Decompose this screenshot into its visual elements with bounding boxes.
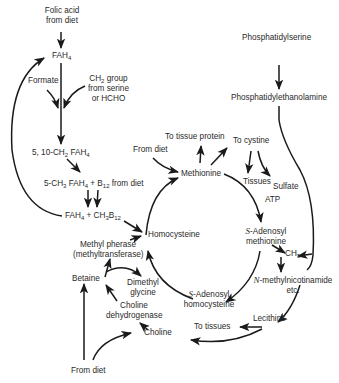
arrow-homocysteine-to-methionine [146,178,178,235]
node-choline: Choline [144,328,172,338]
node-methionine: Methionine [181,169,221,179]
text: 5-CH [44,179,63,188]
node-betaine: Betaine [72,274,100,284]
node-5-ch3-fah4-b12: 5-CH3 FAH4 + B12 from diet [44,179,144,189]
node-tissues: Tissues [243,177,271,187]
node-fah4: FAH4 [52,51,71,61]
node-s-adenosyl-methionine: S-Adenosyl methionine [241,226,291,247]
text: FAH [52,51,68,60]
node-folic-acid-from-diet: Folic acid from diet [40,6,84,26]
subscript: 4 [68,55,71,61]
node-to-cystine: To cystine [233,136,269,146]
text-line: from serine [88,84,129,94]
arrow-dehydrogenase-to-betaine [106,285,117,301]
text: FAH [66,179,84,188]
node-to-tissues: To tissues [194,322,230,332]
text-line: dehydrogenase [106,311,162,321]
node-to-tissue-protein: To tissue protein [165,132,225,142]
node-atp: ATP [265,195,280,205]
text-line: Dimethyl [126,278,160,288]
node-n-methylnicotinamide: N-methylnicotinamide etc. [250,275,336,296]
arrow-betaine-to-pherase [105,259,110,277]
subscript: 4 [86,152,89,158]
text-line: etc. [250,286,336,296]
node-dimethyl-glycine: Dimethyl glycine [126,278,160,298]
pathway-diagram: Folic acid from diet FAH4 Formate CH2 gr… [0,0,339,383]
node-from-diet-methionine: From diet [133,145,168,155]
text: FAH [68,148,86,157]
node-phosphatidylserine: Phosphatidylserine [242,33,311,43]
text-line: N-methylnicotinamide [250,275,336,286]
arrow-methionine-to-cystine [211,148,227,165]
node-phosphatidylethanolamine: Phosphatidylethanolamine [231,93,327,103]
arrow-methionine-to-protein [200,146,201,163]
subscript: 12 [114,215,121,221]
node-5-10-ch2-fah4: 5, 10-CH2 FAH4 [32,148,90,158]
node-ch2-group: CH2 group from serine or HCHO [88,74,129,104]
text: FAH [65,211,81,220]
text-line: Choline [106,301,162,311]
text: 5, 10-CH [32,148,65,157]
arrow-ch2fah4-to-ch3fah4 [67,159,80,172]
text: CH [285,249,297,258]
text-line: Methyl pherase [73,240,143,250]
node-s-adenosyl-homocysteine: S-Adenosyl homocysteine [178,289,240,310]
text-line: S-Adenosyl [178,289,240,300]
node-choline-dehydrogenase: Choline dehydrogenase [106,301,162,321]
node-ch3: CH3 [285,249,300,259]
node-from-diet-bottom: From diet [71,366,106,376]
arrow-ch3fah4-to-fah4ch3b12-b [97,190,98,207]
text-line: Folic acid [40,6,84,16]
node-fah4-ch3b12: FAH4 + CH3B12 [65,211,121,221]
arrow-diet-to-methionine [153,158,178,172]
text: -methylnicotinamide [260,276,333,285]
arrow-diet-to-choline [93,333,131,360]
arrow-cystine-to-sulfate [258,151,270,176]
text: -Adenosyl [193,290,229,299]
text: -Adenosyl [250,227,286,236]
node-sulfate: Sulfate [273,182,299,192]
text: + CH [84,211,105,220]
text: + B [88,179,103,188]
node-homocysteine: Homocysteine [148,230,200,240]
text-line: glycine [126,288,160,298]
arrow-cystine-to-tissues [248,151,251,173]
text-line: (methyltransferase) [73,250,143,260]
subscript: 3 [297,253,300,259]
text-line: CH2 group [88,74,129,84]
text: group [104,74,127,83]
text-line: or HCHO [88,94,129,104]
arrow-ch3b12-to-homocysteine [124,221,142,232]
text-line: S-Adenosyl [241,226,291,237]
arrow-ch2-group [64,86,85,108]
text-line: homocysteine [178,300,240,310]
arrow-betaine-to-dimethylglycine [106,268,141,276]
arrow-formate [47,90,58,108]
text: CH [89,74,101,83]
node-formate: Formate [28,76,58,86]
text-line: methionine [241,237,291,247]
node-lecithins: Lecithins [253,314,285,324]
text: from diet [109,179,143,188]
node-methyl-pherase: Methyl pherase (methyltransferase) [73,240,143,260]
text-line: from diet [40,16,84,26]
